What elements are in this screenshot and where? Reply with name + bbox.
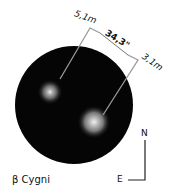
compass-east-label: E (117, 174, 123, 184)
star-name-label: β Cygni (12, 174, 50, 185)
telescope-field (15, 46, 133, 164)
double-star-diagram (0, 0, 171, 193)
compass (128, 140, 145, 180)
star-a (37, 79, 63, 105)
compass-north-label: N (141, 128, 148, 138)
